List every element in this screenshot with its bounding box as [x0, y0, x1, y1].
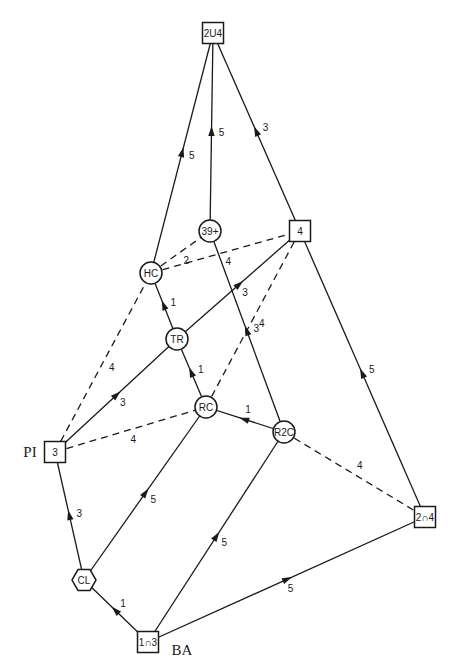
- node-label: RC: [199, 402, 213, 413]
- node-label: 2∩4: [416, 512, 435, 523]
- node-rc: RC: [195, 396, 217, 418]
- node-label: CL: [78, 575, 91, 586]
- edge-weight-label: 4: [259, 318, 265, 329]
- edge-weight-label: 5: [219, 127, 225, 138]
- node-side-label: BA: [172, 642, 193, 658]
- node-1n3: 1∩3BA: [138, 632, 193, 659]
- arrowhead-icon: [189, 367, 196, 377]
- edge-labels-layer: 553241433143541435515: [76, 122, 374, 609]
- edge-weight-label: 4: [225, 256, 231, 267]
- node-side-label: PI: [23, 444, 36, 460]
- edge-weight-label: 4: [357, 460, 363, 471]
- node-r2c: R2C: [273, 421, 295, 443]
- node-label: R2C: [274, 427, 294, 438]
- arrowhead-icon: [254, 127, 261, 137]
- edge-weight-label: 3: [76, 508, 82, 519]
- arrowhead-icon: [162, 300, 169, 310]
- edge-PI-to-RC: [55, 407, 206, 452]
- node-label: 2U4: [204, 28, 223, 39]
- edge-weight-label: 3: [263, 122, 269, 133]
- edge-weight-label: 1: [198, 364, 204, 375]
- node-label: 1∩3: [139, 637, 158, 648]
- edge-weight-label: 5: [222, 537, 228, 548]
- node-label: TR: [170, 334, 183, 345]
- node-39+: 39+: [199, 220, 221, 242]
- edge-weight-label: 2: [184, 255, 190, 266]
- node-label: 3: [52, 447, 58, 458]
- arrowhead-icon: [208, 126, 214, 136]
- edge-weight-label: 5: [288, 583, 294, 594]
- arrowhead-icon: [211, 532, 219, 542]
- arrowhead-icon: [140, 489, 148, 499]
- edge-weight-label: 5: [150, 494, 156, 505]
- edge-weight-label: 4: [131, 434, 137, 445]
- edge-weight-label: 1: [171, 297, 177, 308]
- edge-R2C-to-2n4: [284, 432, 425, 517]
- edge-weight-label: 3: [254, 323, 260, 334]
- graph-canvas: 553241433143541435515 2U439+4HCTRRCR2C3P…: [0, 0, 454, 669]
- node-2n4: 2∩4: [415, 507, 436, 528]
- edge-weight-label: 4: [109, 362, 115, 373]
- arrowhead-icon: [67, 510, 73, 520]
- edge-weight-label: 1: [245, 404, 251, 415]
- node-4: 4: [290, 221, 311, 242]
- edge-weight-label: 3: [120, 397, 126, 408]
- edge-weight-label: 1: [120, 598, 126, 609]
- node-2u4: 2U4: [203, 23, 224, 44]
- edge-weight-label: 5: [189, 150, 195, 161]
- node-label: 39+: [202, 226, 219, 237]
- node-cl: CL: [72, 570, 96, 591]
- edge-weight-label: 5: [369, 364, 375, 375]
- edge-weight-label: 3: [242, 287, 248, 298]
- arrowhead-icon: [178, 147, 184, 157]
- node-label: HC: [144, 268, 158, 279]
- node-pi: 3PI: [23, 442, 65, 463]
- arrowhead-icon: [360, 369, 367, 379]
- nodes-layer: 2U439+4HCTRRCR2C3PI2∩4CL1∩3BA: [23, 23, 435, 659]
- arrowhead-icon: [239, 418, 249, 424]
- node-tr: TR: [166, 328, 188, 350]
- node-label: 4: [297, 226, 303, 237]
- node-hc: HC: [140, 262, 162, 284]
- edges-layer: [55, 33, 425, 642]
- edge-PI-to-HC: [55, 273, 151, 452]
